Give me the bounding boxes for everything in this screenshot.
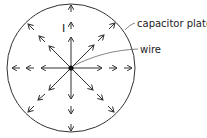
plate-label: capacitor plate bbox=[137, 18, 207, 29]
plate-leader-line bbox=[125, 23, 135, 30]
arrow-up-left bbox=[49, 46, 71, 68]
diagram-canvas: I capacitor plate wire bbox=[0, 0, 207, 138]
arrow-down-left bbox=[49, 68, 71, 90]
arrow-up-right bbox=[71, 45, 94, 68]
wire bbox=[68, 65, 73, 70]
arrow-down-right bbox=[71, 68, 93, 90]
wire-label: wire bbox=[140, 44, 161, 55]
wire-leader-line bbox=[73, 49, 138, 66]
leader-lines bbox=[73, 23, 138, 66]
current-label: I bbox=[62, 22, 65, 35]
